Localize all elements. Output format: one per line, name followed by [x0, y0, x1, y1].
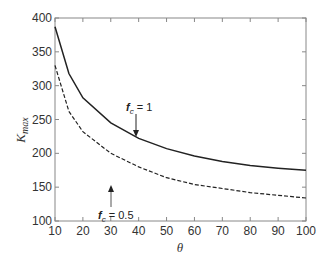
plot-axes: 1020304050607080901001001502002503003504… [32, 11, 316, 238]
y-tick-label: 300 [32, 79, 52, 93]
x-tick-label: 50 [160, 224, 174, 238]
x-tick-label: 40 [132, 224, 146, 238]
annotation-fc-1: fc = 1 [126, 101, 152, 116]
y-axis-label: Kmax [13, 117, 30, 144]
x-tick-label: 30 [104, 224, 118, 238]
y-tick-label: 350 [32, 45, 52, 59]
arrow-fc-1 [133, 114, 139, 137]
x-tick-label: 90 [271, 224, 285, 238]
series-line-1 [55, 27, 306, 171]
plot-frame [55, 18, 306, 221]
y-tick-label: 150 [32, 180, 52, 194]
arrow-fc-05 [108, 185, 114, 207]
annotation-fc-05: fc = 0.5 [98, 209, 134, 224]
x-axis-label: θ [177, 240, 184, 255]
plot-series [55, 27, 306, 198]
y-tick-label: 400 [32, 11, 52, 25]
x-tick-label: 60 [188, 224, 202, 238]
x-tick-label: 100 [296, 224, 316, 238]
chart: 1020304050607080901001001502002503003504… [0, 0, 329, 259]
y-tick-label: 200 [32, 146, 52, 160]
y-tick-label: 250 [32, 113, 52, 127]
series-line-2 [55, 65, 306, 198]
x-tick-label: 80 [244, 224, 258, 238]
y-tick-label: 100 [32, 214, 52, 228]
x-tick-label: 20 [76, 224, 90, 238]
x-tick-label: 70 [216, 224, 230, 238]
